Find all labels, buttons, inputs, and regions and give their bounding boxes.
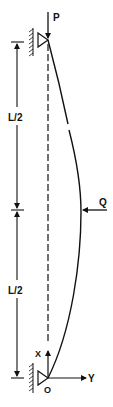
axial-load-label: P [53, 12, 60, 23]
length-dimension [11, 42, 24, 378]
axial-load-arrow: P [48, 12, 60, 38]
deflected-shape-curve [48, 40, 81, 378]
half-length-label-top: L/2 [8, 112, 23, 123]
coordinate-axes: X Y O [35, 349, 95, 395]
x-axis-label: X [35, 349, 41, 359]
half-length-label-bottom: L/2 [8, 285, 23, 296]
lateral-load-label: Q [99, 197, 107, 208]
buckled-column-diagram: P Q L/2 L/2 [0, 0, 113, 407]
origin-label: O [44, 385, 51, 395]
lateral-load-arrow: Q [83, 197, 107, 210]
y-axis-label: Y [88, 373, 95, 384]
top-pin-support [29, 28, 48, 56]
